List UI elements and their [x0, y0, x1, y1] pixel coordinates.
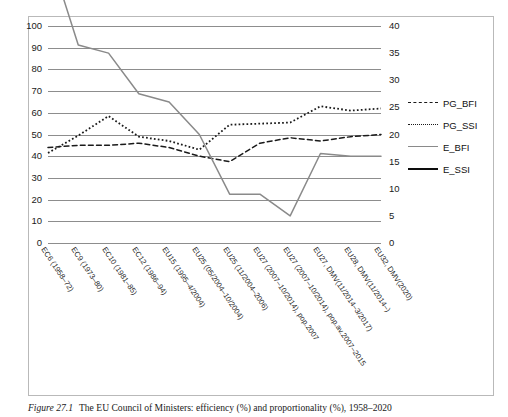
legend-swatch-icon	[408, 98, 438, 108]
legend-item-e_bfi[interactable]: E_BFI	[408, 136, 492, 158]
y-tick-right: 0	[389, 238, 415, 248]
legend-label: E_BFI	[443, 142, 469, 153]
y-tick-left: 80	[16, 64, 42, 74]
caption-number: Figure 27.1	[28, 402, 73, 413]
legend-label: PG_BFI	[443, 98, 477, 109]
y-tick-left: 90	[16, 43, 42, 53]
y-tick-left: 40	[16, 151, 42, 161]
y-tick-left: 100	[16, 21, 42, 31]
y-tick-left: 20	[16, 195, 42, 205]
y-tick-right: 30	[389, 75, 415, 85]
gridline	[48, 243, 381, 244]
chart-legend: PG_BFIPG_SSIE_BFIE_SSI	[408, 92, 492, 180]
legend-label: PG_SSI	[443, 120, 477, 131]
y-tick-right: 5	[389, 211, 415, 221]
y-tick-left: 0	[16, 238, 42, 248]
y-tick-left: 60	[16, 108, 42, 118]
x-tick-label: EC9 (1973–80)	[70, 246, 105, 293]
figure-caption: Figure 27.1The EU Council of Ministers: …	[28, 402, 498, 413]
y-tick-right: 35	[389, 48, 415, 58]
caption-text: The EU Council of Ministers: efficiency …	[79, 402, 392, 413]
y-tick-left: 10	[16, 216, 42, 226]
chart-lines	[48, 26, 381, 243]
y-tick-left: 30	[16, 173, 42, 183]
legend-item-pg_ssi[interactable]: PG_SSI	[408, 114, 492, 136]
legend-swatch-icon	[408, 142, 438, 152]
x-axis-labels: EC6 (1958–72)EC9 (1973–80)EC10 (1981–85)…	[48, 246, 381, 356]
y-tick-left: 50	[16, 130, 42, 140]
y-tick-right: 10	[389, 184, 415, 194]
legend-label: E_SSI	[443, 164, 470, 175]
legend-swatch-icon	[408, 120, 438, 130]
figure-container: 1009080706050403020100 4035302520151050 …	[0, 0, 508, 417]
y-tick-right: 40	[389, 21, 415, 31]
y-tick-left: 70	[16, 86, 42, 96]
legend-item-pg_bfi[interactable]: PG_BFI	[408, 92, 492, 114]
legend-item-e_ssi[interactable]: E_SSI	[408, 158, 492, 180]
legend-swatch-icon	[408, 164, 438, 174]
series-line-pg_bfi	[48, 135, 381, 162]
x-tick-label: EU27, DMV(11/2014–3/2017)	[312, 246, 374, 333]
